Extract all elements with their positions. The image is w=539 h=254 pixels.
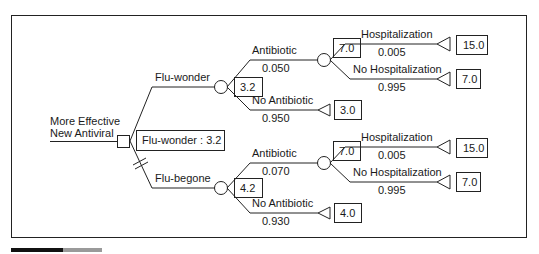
branch-prob-no-antibiotic: 0.950 — [262, 112, 290, 124]
branch-label-no-hospitalization: No Hospitalization — [353, 63, 442, 75]
payoff-value: 7.0 — [462, 176, 477, 188]
decision-tree-diagram: More Effective New Antiviral Flu-wonder … — [0, 0, 539, 254]
chance-node-icon[interactable] — [215, 182, 228, 195]
branch-label-hospitalization: Hospitalization — [361, 28, 433, 40]
terminal-node-icon[interactable] — [318, 207, 330, 219]
subtree-flu-wonder: 3.2 Antibiotic 0.050 No Antibiotic 0.950… — [215, 28, 488, 124]
payoff-value: 4.0 — [340, 207, 355, 219]
payoff-value: 15.0 — [463, 39, 484, 51]
branch-label-no-antibiotic: No Antibiotic — [252, 197, 314, 209]
branch-label-antibiotic: Antibiotic — [252, 44, 297, 56]
branch-label-no-hospitalization: No Hospitalization — [353, 166, 442, 178]
branch-prob-no-hospitalization: 0.995 — [378, 81, 406, 93]
scroll-bar-track — [63, 248, 102, 252]
terminal-node-icon[interactable] — [318, 104, 330, 116]
decision-result: Flu-wonder : 3.2 — [142, 134, 221, 146]
node-value: 3.2 — [240, 81, 255, 93]
branch-label-flu-begone: Flu-begone — [155, 172, 211, 184]
chance-node-icon[interactable] — [318, 54, 331, 67]
terminal-node-icon[interactable] — [437, 37, 450, 51]
root-decision: More Effective New Antiviral Flu-wonder … — [50, 115, 225, 151]
branch-label-flu-wonder: Flu-wonder — [155, 71, 210, 83]
subtree-flu-begone: 4.2 Antibiotic 0.070 No Antibiotic 0.930… — [215, 131, 488, 227]
branch-prob-antibiotic: 0.050 — [262, 62, 290, 74]
branch-prob-hospitalization: 0.005 — [378, 149, 406, 161]
branch-prob-no-hospitalization: 0.995 — [378, 184, 406, 196]
terminal-node-icon[interactable] — [437, 140, 450, 154]
node-value: 4.2 — [240, 182, 255, 194]
root-label-line1: More Effective — [50, 115, 120, 127]
payoff-value: 3.0 — [340, 104, 355, 116]
branch-label-antibiotic: Antibiotic — [252, 147, 297, 159]
root-label-line2: New Antiviral — [50, 127, 114, 139]
chance-node-icon[interactable] — [215, 81, 228, 94]
decision-node-icon[interactable] — [118, 136, 130, 148]
scroll-bar-thumb — [11, 248, 63, 252]
branch-label-no-antibiotic: No Antibiotic — [252, 94, 314, 106]
branch-label-hospitalization: Hospitalization — [361, 131, 433, 143]
branch-prob-antibiotic: 0.070 — [262, 165, 290, 177]
branch-prob-hospitalization: 0.005 — [378, 46, 406, 58]
chance-node-icon[interactable] — [318, 157, 331, 170]
payoff-value: 15.0 — [463, 142, 484, 154]
branch-prob-no-antibiotic: 0.930 — [262, 215, 290, 227]
payoff-value: 7.0 — [462, 73, 477, 85]
